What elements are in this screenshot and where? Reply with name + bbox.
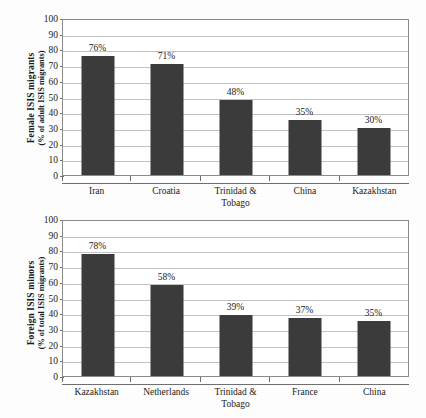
x-axis-category-label: China <box>340 387 409 410</box>
y-tick-label: 60 <box>32 278 58 288</box>
y-tick-label: 40 <box>32 109 58 119</box>
chart-panel-foreign-isis-minors: Foreign ISIS minors (% of total ISIS mig… <box>0 205 426 418</box>
bar[interactable] <box>150 64 183 175</box>
x-tick-cell <box>131 377 200 381</box>
y-tick-label: 70 <box>32 62 58 72</box>
x-axis-ticks <box>62 176 409 180</box>
plot-area: 76%71%48%35%30% <box>62 19 409 176</box>
bar[interactable] <box>81 254 114 376</box>
bar-slot: 37% <box>270 221 339 376</box>
x-axis-category-label: France <box>270 387 339 410</box>
bar-value-label: 71% <box>158 51 175 61</box>
x-tick-cell <box>340 176 409 180</box>
x-tick-cell <box>201 176 270 180</box>
bar[interactable] <box>357 128 390 175</box>
y-tick-label: 100 <box>32 15 58 25</box>
y-tick-label: 10 <box>32 156 58 166</box>
bar[interactable] <box>150 285 183 376</box>
x-tick-mark <box>62 377 63 382</box>
x-tick-cell <box>131 176 200 180</box>
x-axis-ticks <box>62 377 409 381</box>
y-axis-ticks: 1009080706050403020100 <box>24 19 58 176</box>
bar-value-label: 35% <box>365 308 382 318</box>
bar-slot: 39% <box>201 221 270 376</box>
y-tick-label: 60 <box>32 77 58 87</box>
y-tick-label: 40 <box>32 310 58 320</box>
chart-panel-female-isis-migrants: Female ISIS migrants (% of adult ISIS mi… <box>0 0 426 209</box>
bar-value-label: 35% <box>296 107 313 117</box>
bar-value-label: 58% <box>158 272 175 282</box>
y-tick-label: 0 <box>32 172 58 182</box>
x-tick-cell <box>201 377 270 381</box>
y-tick-label: 100 <box>32 216 58 226</box>
x-tick-cell <box>62 377 131 381</box>
x-axis-category-label: Kazakhstan <box>62 387 131 410</box>
x-axis-line <box>62 384 409 385</box>
bar[interactable] <box>288 318 321 376</box>
y-axis-ticks: 1009080706050403020100 <box>24 220 58 377</box>
bar-slot: 76% <box>63 20 132 175</box>
bar[interactable] <box>357 321 390 376</box>
bar[interactable] <box>219 100 252 175</box>
plot-area: 78%58%39%37%35% <box>62 220 409 377</box>
y-tick-label: 50 <box>32 294 58 304</box>
bar-series: 78%58%39%37%35% <box>63 221 408 376</box>
bar-slot: 58% <box>132 221 201 376</box>
bar-value-label: 30% <box>365 115 382 125</box>
y-tick-label: 0 <box>32 373 58 383</box>
x-axis-category-label: Netherlands <box>131 387 200 410</box>
bar[interactable] <box>81 56 114 175</box>
x-tick-cell <box>270 377 339 381</box>
y-tick-label: 50 <box>32 93 58 103</box>
bar-slot: 30% <box>339 20 408 175</box>
bar-slot: 48% <box>201 20 270 175</box>
bar-slot: 35% <box>339 221 408 376</box>
bar-slot: 71% <box>132 20 201 175</box>
bar-value-label: 78% <box>89 241 106 251</box>
bar-value-label: 37% <box>296 305 313 315</box>
bar-slot: 78% <box>63 221 132 376</box>
y-tick-label: 90 <box>32 30 58 40</box>
y-tick-label: 80 <box>32 46 58 56</box>
y-tick-label: 10 <box>32 357 58 367</box>
y-tick-label: 80 <box>32 247 58 257</box>
figure-two-bar-charts: Female ISIS migrants (% of adult ISIS mi… <box>0 0 426 418</box>
bar-series: 76%71%48%35%30% <box>63 20 408 175</box>
x-tick-cell <box>62 176 131 180</box>
y-tick-label: 20 <box>32 140 58 150</box>
y-tick-label: 90 <box>32 231 58 241</box>
y-tick-label: 30 <box>32 325 58 335</box>
bar-value-label: 39% <box>227 302 244 312</box>
x-tick-mark <box>62 176 63 181</box>
x-axis-labels: KazakhstanNetherlandsTrinidad & TobagoFr… <box>62 387 409 410</box>
bar-value-label: 76% <box>89 43 106 53</box>
y-tick-label: 30 <box>32 124 58 134</box>
x-tick-cell <box>270 176 339 180</box>
x-tick-cell <box>340 377 409 381</box>
x-axis-line <box>62 183 409 184</box>
y-tick-label: 20 <box>32 341 58 351</box>
bar-value-label: 48% <box>227 87 244 97</box>
y-tick-label: 70 <box>32 263 58 273</box>
bar[interactable] <box>219 315 252 376</box>
bar[interactable] <box>288 120 321 175</box>
bar-slot: 35% <box>270 20 339 175</box>
x-axis-category-label: Trinidad & Tobago <box>201 387 270 410</box>
